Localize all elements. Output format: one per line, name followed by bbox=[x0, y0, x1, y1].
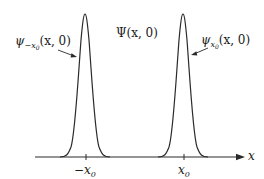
total-wavefunction-label: Ψ(x, 0) bbox=[116, 26, 158, 40]
tick-label-minus-x0-sub: 0 bbox=[91, 170, 96, 179]
right-pointer-arrowhead-icon bbox=[191, 51, 197, 55]
tick-label-plus-x0-sub: 0 bbox=[185, 170, 190, 179]
x-axis-label: x bbox=[248, 149, 255, 163]
tick-label-minus-x0-main: −x bbox=[74, 163, 91, 177]
right-symbol: ψ bbox=[201, 33, 210, 47]
tick-label-plus-x0-main: x bbox=[178, 163, 185, 177]
left-pointer-arrowhead-icon bbox=[71, 53, 77, 57]
tick-label-plus-x0: x0 bbox=[178, 163, 190, 177]
right-args: (x, 0) bbox=[219, 33, 250, 47]
tick-label-minus-x0: −x0 bbox=[74, 163, 96, 177]
total-args: (x, 0) bbox=[127, 26, 158, 40]
total-symbol: Ψ bbox=[116, 26, 127, 40]
left-subscript: −x bbox=[24, 41, 35, 50]
x-axis-arrowhead-icon bbox=[236, 154, 245, 160]
left-args: (x, 0) bbox=[39, 34, 70, 48]
right-packet-label: ψx0(x, 0) bbox=[201, 33, 250, 47]
left-symbol: ψ bbox=[15, 34, 24, 48]
left-packet-label: ψ−x0(x, 0) bbox=[15, 34, 71, 48]
